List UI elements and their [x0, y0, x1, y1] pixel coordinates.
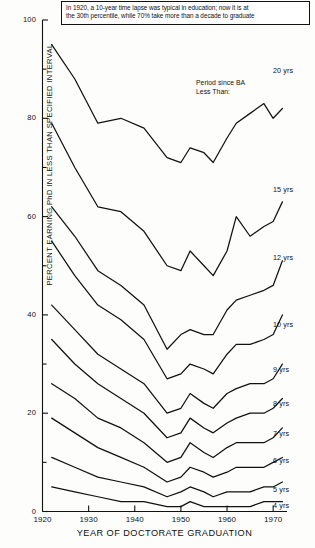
series-line-10-yrs [52, 241, 283, 379]
x-axis-title: YEAR OF DOCTORATE GRADUATION [42, 528, 287, 538]
series-line-7-yrs [52, 384, 283, 463]
series-label-20-yrs: 20 yrs [273, 66, 293, 75]
x-tick-label: 1960 [210, 515, 244, 524]
series-label-6-yrs: 6 yrs [273, 456, 289, 465]
series-line-9-yrs [52, 305, 283, 413]
series-label-12-yrs: 12 yrs [273, 253, 293, 262]
series-label-4-yrs: 4 yrs [273, 501, 289, 510]
series-label-8-yrs: 8 yrs [273, 399, 289, 408]
legend-header-line-2: Less Than: [196, 87, 245, 96]
axis-group [43, 20, 288, 512]
y-axis-title: PERCENT EARNING PhD IN LESS THAN SPECIFI… [45, 20, 54, 310]
x-tick-label: 1970 [256, 515, 290, 524]
series-label-9-yrs: 9 yrs [273, 365, 289, 374]
y-tick-label: 100 [14, 15, 36, 24]
y-tick-label: 60 [14, 212, 36, 221]
series-line-5-yrs [52, 457, 283, 496]
x-tick-label: 1930 [72, 515, 106, 524]
series-line-12-yrs [52, 207, 283, 350]
series-line-20-yrs [52, 45, 283, 163]
series-label-5-yrs: 5 yrs [273, 485, 289, 494]
chart-page: In 1920, a 10-year time lapse was typica… [0, 0, 315, 548]
y-tick-label: 80 [14, 113, 36, 122]
series-label-10-yrs: 10 yrs [273, 320, 293, 329]
legend-header-line-1: Period since BA [196, 78, 245, 87]
y-tick-label: 40 [14, 310, 36, 319]
series-label-7-yrs: 7 yrs [273, 429, 289, 438]
y-tick-label: 20 [14, 408, 36, 417]
legend-header: Period since BA Less Than: [196, 78, 245, 96]
x-tick-label: 1940 [118, 515, 152, 524]
x-tick-label: 1950 [164, 515, 198, 524]
x-tick-label: 1920 [26, 515, 60, 524]
series-label-15-yrs: 15 yrs [273, 185, 293, 194]
series-lines-group [52, 45, 283, 507]
series-line-8-yrs [52, 339, 283, 437]
